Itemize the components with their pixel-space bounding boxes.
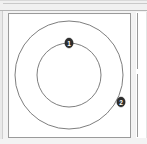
right-side-panel[interactable] (136, 12, 147, 138)
bottom-gutter (0, 139, 147, 144)
side-panel-divider-top (137, 13, 138, 69)
toolbar-strip[interactable] (0, 0, 147, 11)
step-marker-2[interactable]: 2 (117, 97, 125, 107)
step-marker-2-dot (117, 97, 125, 107)
toolbar-hairline-top (0, 0, 147, 1)
step-marker-1[interactable]: 1 (65, 38, 73, 48)
concentric-circles-diagram: 1 2 (9, 14, 130, 137)
step-marker-1-dot (65, 38, 73, 48)
side-panel-divider-bottom (137, 74, 138, 137)
window-edge-left (0, 0, 3, 144)
side-panel-right-edge (146, 12, 147, 138)
inner-circle[interactable] (37, 43, 101, 107)
app-root: 1 2 (0, 0, 147, 144)
outer-circle[interactable] (15, 21, 123, 129)
drawing-canvas-panel[interactable]: 1 2 (8, 13, 131, 138)
toolbar-hairline-mid (3, 3, 147, 4)
